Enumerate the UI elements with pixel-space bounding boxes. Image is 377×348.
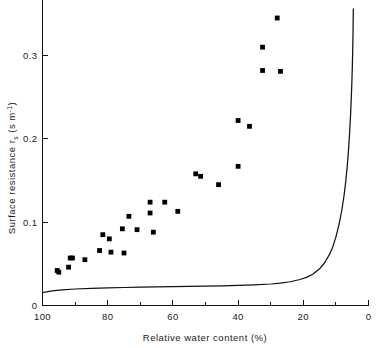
data-point bbox=[66, 265, 71, 270]
y-axis-tick-labels: 00.10.20.3 bbox=[23, 50, 37, 311]
x-axis-ticks bbox=[43, 300, 369, 306]
data-point bbox=[236, 164, 241, 169]
y-tick-label-0.3: 0.3 bbox=[23, 50, 37, 61]
x-axis-title: Relative water content (%) bbox=[143, 332, 267, 343]
data-point bbox=[135, 227, 140, 232]
data-point bbox=[247, 124, 252, 129]
x-tick-label-0: 0 bbox=[366, 311, 372, 322]
data-point bbox=[82, 257, 87, 262]
data-point bbox=[70, 256, 75, 261]
data-point bbox=[148, 211, 153, 216]
data-point bbox=[260, 45, 265, 50]
scatter-plot: 00.10.20.3 100806040200 Relative water c… bbox=[0, 0, 377, 348]
data-point bbox=[151, 230, 156, 235]
x-tick-label-20: 20 bbox=[298, 311, 309, 322]
data-point bbox=[56, 270, 61, 275]
data-point bbox=[122, 251, 127, 256]
data-point bbox=[236, 118, 241, 123]
data-point bbox=[97, 248, 102, 253]
data-point bbox=[107, 236, 112, 241]
data-point bbox=[193, 171, 198, 176]
x-tick-label-80: 80 bbox=[102, 311, 113, 322]
x-tick-label-40: 40 bbox=[232, 311, 243, 322]
data-point bbox=[120, 226, 125, 231]
data-point bbox=[100, 232, 105, 237]
data-point bbox=[162, 200, 167, 205]
data-point bbox=[278, 69, 283, 74]
x-tick-label-100: 100 bbox=[34, 311, 51, 322]
figure-container: 00.10.20.3 100806040200 Relative water c… bbox=[0, 0, 377, 348]
data-point bbox=[175, 209, 180, 214]
data-point bbox=[148, 200, 153, 205]
y-tick-label-0.1: 0.1 bbox=[23, 217, 37, 228]
y-axis-ticks bbox=[43, 56, 49, 223]
model-curve-line bbox=[43, 9, 354, 293]
data-point bbox=[275, 16, 280, 21]
data-point bbox=[260, 68, 265, 73]
x-axis-tick-labels: 100806040200 bbox=[34, 311, 371, 322]
data-point bbox=[126, 214, 131, 219]
data-point bbox=[109, 250, 114, 255]
data-point-group bbox=[55, 16, 283, 275]
data-point bbox=[198, 174, 203, 179]
y-axis-title: Surface resistance rs (s m-1) bbox=[6, 102, 19, 234]
y-axis-title-group: Surface resistance rs (s m-1) bbox=[6, 102, 19, 234]
y-tick-label-0.2: 0.2 bbox=[23, 133, 37, 144]
data-point bbox=[216, 182, 221, 187]
x-tick-label-60: 60 bbox=[167, 311, 178, 322]
y-tick-label-0: 0 bbox=[32, 300, 38, 311]
